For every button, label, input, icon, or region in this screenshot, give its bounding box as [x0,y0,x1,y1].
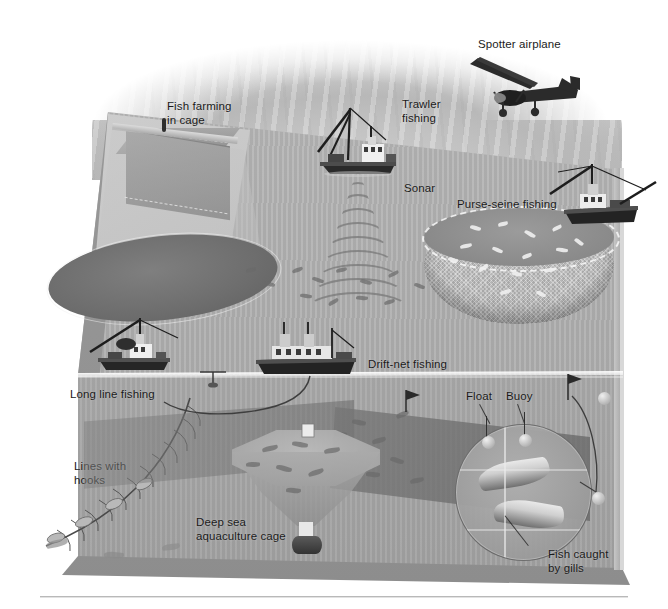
buoy-flag-right [546,370,616,510]
top-edge-artifact [168,0,230,6]
label-fish-caught-by-gills: Fish caught by gills [548,548,609,575]
footer-rule-highlight [40,597,628,598]
label-purse-seine-fishing: Purse-seine fishing [457,198,557,212]
surface-float-marker [196,366,230,388]
buoy-ball [519,434,532,447]
label-drift-net-fishing: Drift-net fishing [368,358,447,372]
tuna-caught-upper [477,456,552,492]
float-ball [482,436,495,449]
label-fish-farming-in-cage: Fish farming in cage [167,100,231,127]
label-buoy: Buoy [506,390,533,404]
fish-farm-worker [162,118,166,132]
spotter-airplane-icon [458,48,588,120]
label-trawler-fishing: Trawler fishing [402,98,441,125]
cage-mooring-line [160,372,360,452]
net-rope-vertical [504,425,506,560]
fish-in-deep-sea-cage [246,462,260,468]
deep-sea-cage-anchor [292,536,322,554]
buoy-flag-left-bottom [396,386,436,426]
long-line-vessel-icon [78,318,186,380]
label-float: Float [466,390,492,404]
label-spotter-airplane: Spotter airplane [478,38,561,52]
label-deep-sea-aquaculture-cage: Deep sea aquaculture cage [196,516,286,543]
trawler-boat-icon [300,100,410,178]
net-rope-horizontal [456,529,591,531]
label-sonar: Sonar [404,182,435,196]
diagram-canvas: Spotter airplane Fish farming in cage [0,0,668,609]
